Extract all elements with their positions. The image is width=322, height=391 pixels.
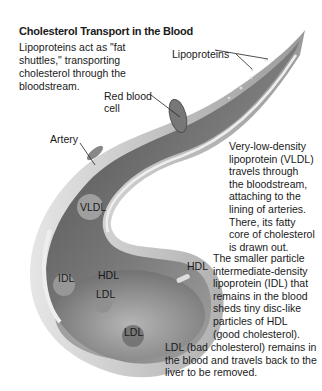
label-artery: Artery [50,133,78,145]
label-idl: IDL [58,272,74,284]
idl-description: The smaller particle intermediate-densit… [213,252,308,340]
intro-text: Lipoproteins act as "fat shuttles," tran… [19,41,169,93]
label-hdl-inner: HDL [98,269,119,281]
label-hdl-outer: HDL [187,260,208,272]
diagram-title: Cholesterol Transport in the Blood [19,25,193,37]
label-lipoproteins: Lipoproteins [172,48,229,60]
ldl-description: LDL (bad cholesterol) remains in the blo… [165,341,317,379]
vldl-description: Very-low-density lipoprotein (VLDL) trav… [229,140,315,253]
label-ldl-lower: LDL [124,326,143,338]
label-ldl-inner: LDL [96,288,115,300]
label-red-blood-cell: Red blood cell [104,90,152,114]
label-vldl: VLDL [80,201,106,213]
